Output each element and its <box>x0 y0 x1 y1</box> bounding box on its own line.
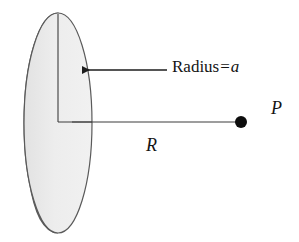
distance-label-R: R <box>146 136 157 154</box>
point-p-marker <box>235 116 247 128</box>
disk-field-diagram: Radius=a R P <box>0 0 299 242</box>
radius-label: Radius=a <box>172 58 239 75</box>
radius-label-word: Radius <box>172 57 219 76</box>
diagram-canvas <box>0 0 299 242</box>
point-label-P: P <box>271 99 282 117</box>
radius-label-equals: = <box>219 57 231 76</box>
radius-label-symbol: a <box>231 57 240 76</box>
